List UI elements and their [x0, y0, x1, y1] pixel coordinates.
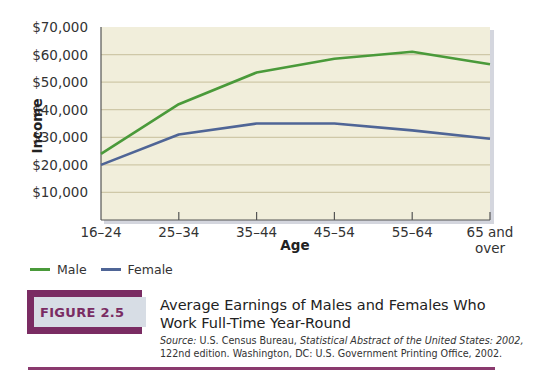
y-axis-title: Income [29, 98, 45, 153]
source-publication: Statistical Abstract of the United State… [300, 335, 524, 346]
x-tick-label: 65 and [467, 224, 514, 240]
y-tick-label: $20,000 [32, 157, 88, 173]
y-tick-label: $50,000 [32, 74, 88, 90]
x-tick-label: 45–54 [314, 224, 355, 240]
source-prefix: Source: [160, 335, 196, 346]
legend-item-male: Male [30, 262, 87, 277]
y-tick-label: $70,000 [32, 19, 88, 35]
bottom-divider [28, 367, 495, 370]
source-details: 122nd edition. Washington, DC: U.S. Gove… [160, 348, 502, 359]
male-line-swatch-icon [30, 268, 50, 271]
female-line-swatch-icon [101, 268, 121, 271]
y-tick-label: $60,000 [32, 47, 88, 63]
source-org: U.S. Census Bureau, [196, 335, 299, 346]
x-tick-label: 35–44 [236, 224, 277, 240]
figure-source: Source: U.S. Census Bureau, Statistical … [160, 335, 530, 360]
x-tick-label-line2: over [475, 240, 506, 256]
x-tick-label: 55–64 [392, 224, 433, 240]
figure-label: FIGURE 2.5 [34, 297, 146, 327]
line-chart: $10,000$20,000$30,000$40,000$50,000$60,0… [0, 0, 537, 260]
legend: Male Female [30, 262, 187, 277]
legend-label-male: Male [57, 262, 87, 277]
x-tick-label: 25–34 [158, 224, 199, 240]
legend-label-female: Female [128, 262, 173, 277]
y-tick-label: $10,000 [32, 184, 88, 200]
figure-number: FIGURE 2.5 [34, 305, 124, 320]
x-axis-title: Age [280, 237, 309, 253]
legend-item-female: Female [101, 262, 173, 277]
x-tick-label: 16–24 [80, 224, 121, 240]
figure-title: Average Earnings of Males and Females Wh… [160, 296, 520, 332]
